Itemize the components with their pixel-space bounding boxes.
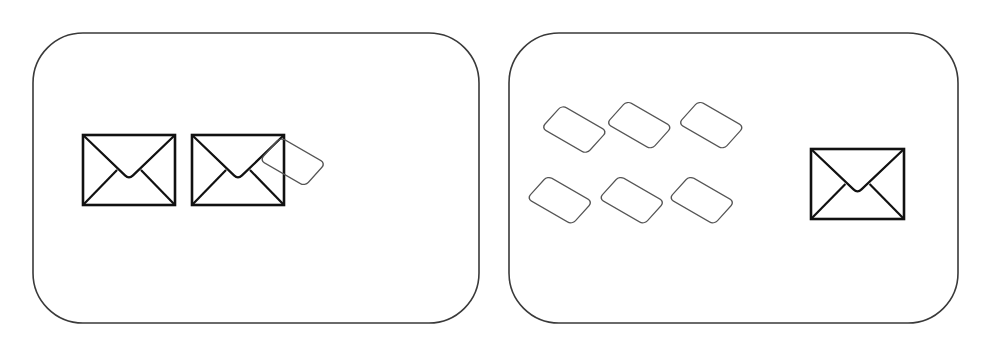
tilted-card-icon (606, 101, 672, 150)
diagram-canvas (0, 0, 989, 340)
tilted-card-icon (527, 176, 593, 225)
envelope-icon (811, 149, 904, 219)
tilted-card-icon (599, 176, 665, 225)
tilted-card-icon (669, 176, 735, 225)
tilted-card-icon (542, 105, 608, 154)
envelope-icon (192, 135, 284, 205)
envelope-icon (83, 135, 175, 205)
left-panel (33, 33, 479, 323)
right-panel (509, 33, 958, 323)
tilted-card-icon (678, 101, 744, 150)
